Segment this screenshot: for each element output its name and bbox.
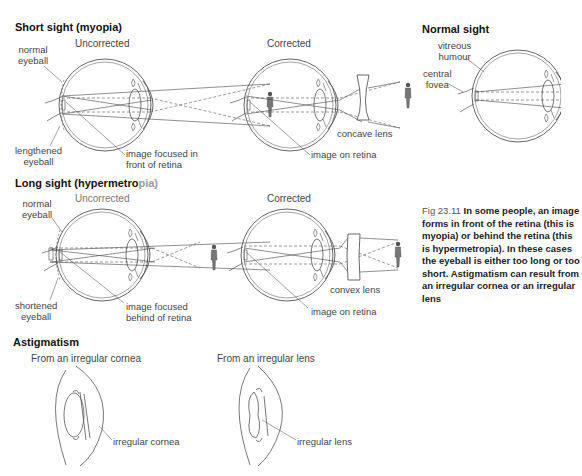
figure-caption: Fig 23.11 In some people, an image forms…	[422, 205, 582, 305]
hypermetropia-heading: Long sight (hypermetropia)	[15, 177, 158, 189]
myopia-corrected-title: Corrected	[267, 38, 311, 49]
concave-lens-label: concave lens	[337, 128, 392, 139]
irregular-cornea-title: From an irregular cornea	[31, 353, 141, 364]
myopia-uncorrected-title: Uncorrected	[75, 38, 129, 49]
irregular-cornea-label: irregular cornea	[113, 436, 180, 447]
hyper-normal-eyeball-label: normal eyeball	[22, 198, 52, 220]
myopia-uncorrected-eye	[44, 59, 273, 155]
figure-number: Fig 23.11	[422, 205, 461, 216]
hypermetropia-corrected-title: Corrected	[267, 193, 311, 204]
vitreous-humour-label: vitreous humour	[438, 40, 471, 62]
concave-lens-shape	[357, 75, 369, 120]
astigmatism-lens-drawing	[239, 366, 296, 466]
central-fovea-label: central fovea	[423, 68, 452, 90]
irregular-lens-label: irregular lens	[297, 436, 352, 447]
myopia-image-front-label: image focused in front of retina	[126, 148, 198, 170]
image-behind-retina-label: image focused behind of retina	[126, 301, 192, 323]
hyper-image-on-retina-label: image on retina	[311, 306, 376, 317]
myopia-heading: Short sight (myopia)	[15, 21, 122, 33]
hypermetropia-uncorrected-title: Uncorrected	[75, 193, 129, 204]
myopia-normal-eyeball-label: normal eyeball	[18, 44, 48, 66]
astigmatism-heading: Astigmatism	[13, 336, 79, 348]
irregular-lens-title: From an irregular lens	[217, 353, 315, 364]
normal-sight-eye	[405, 50, 561, 142]
hypermetropia-uncorrected-eye	[42, 209, 270, 303]
myopia-image-on-retina-label: image on retina	[311, 149, 376, 160]
shortened-eyeball-label: shortened eyeball	[15, 300, 57, 322]
normal-sight-heading: Normal sight	[422, 23, 489, 35]
myopia-lengthened-eyeball-label: lengthened eyeball	[15, 145, 62, 167]
myopia-corrected-eye	[230, 59, 400, 155]
caption-text: In some people, an image forms in front …	[422, 205, 580, 304]
astigmatism-cornea-drawing	[56, 366, 113, 466]
convex-lens-label: convex lens	[330, 284, 380, 295]
convex-lens-shape	[347, 234, 360, 280]
